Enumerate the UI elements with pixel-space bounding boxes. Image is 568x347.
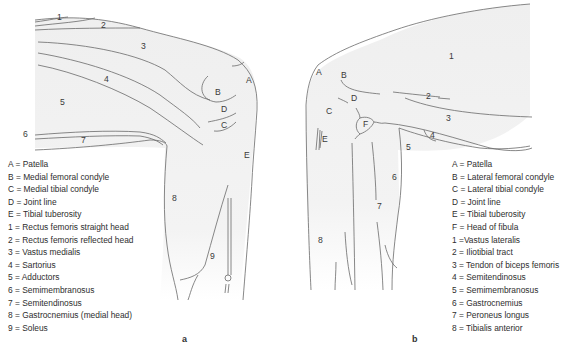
legend-a-item: 4 = Sartorius [8,259,133,272]
marker-a-5: 5 [60,98,65,107]
marker-b-B: B [341,71,347,80]
marker-b-D: D [351,94,357,103]
marker-a-9: 9 [210,252,215,261]
legend-b-item: 4 = Semitendinosus [452,271,559,284]
legend-a-item: B = Medial femoral condyle [8,171,133,184]
marker-a-6: 6 [23,130,28,139]
legend-a-item: 5 = Adductors [8,271,133,284]
panel-label-a: a [182,334,187,344]
legend-b-item: C = Lateral tibial condyle [452,183,559,196]
marker-b-1: 1 [449,52,454,61]
legend-panel-b: A = Patella B = Lateral femoral condyle … [452,158,559,334]
marker-b-E: E [322,135,328,144]
marker-a-E: E [244,151,250,160]
legend-a-item: 2 = Rectus femoris reflected head [8,234,133,247]
legend-a-item: 3 = Vastus medialis [8,246,133,259]
legend-a-item: A = Patella [8,158,133,171]
legend-b-item: 3 = Tendon of biceps femoris [452,259,559,272]
legend-b-item: 5 = Semimembranosus [452,284,559,297]
legend-b-item: D = Joint line [452,196,559,209]
marker-a-C: C [221,121,227,130]
panel-label-b: b [412,334,418,344]
legend-b-item: B = Lateral femoral condyle [452,171,559,184]
marker-b-7: 7 [377,202,382,211]
legend-a-item: C = Medial tibial condyle [8,183,133,196]
marker-b-5: 5 [406,143,411,152]
legend-b-item: 1 =Vastus lateralis [452,234,559,247]
legend-b-item: 6 = Gastrocnemius [452,297,559,310]
legend-panel-a: A = Patella B = Medial femoral condyle C… [8,158,133,334]
marker-b-6: 6 [392,173,397,182]
marker-a-1: 1 [57,13,62,22]
marker-a-A: A [246,76,252,85]
legend-a-item: 7 = Semitendinosus [8,297,133,310]
marker-b-3: 3 [446,114,451,123]
marker-a-D: D [221,105,227,114]
legend-a-item: 8 = Gastrocnemius (medial head) [8,309,133,322]
legend-a-item: 6 = Semimembranosus [8,284,133,297]
marker-b-2: 2 [426,92,431,101]
legend-b-item: 2 = Iliotibial tract [452,246,559,259]
marker-a-2: 2 [101,21,106,30]
marker-a-7: 7 [81,136,86,145]
marker-b-4: 4 [430,131,435,140]
marker-b-F: F [363,120,368,129]
legend-b-item: A = Patella [452,158,559,171]
legend-a-item: 1 = Rectus femoris straight head [8,221,133,234]
legend-a-item: D = Joint line [8,196,133,209]
marker-b-C: C [326,107,332,116]
marker-a-4: 4 [104,75,109,84]
marker-b-8: 8 [318,236,323,245]
marker-a-8: 8 [172,194,177,203]
legend-a-item: 9 = Soleus [8,322,133,335]
legend-a-item: E = Tibial tuberosity [8,208,133,221]
legend-b-item: E = Tibial tuberosity [452,208,559,221]
legend-b-item: 8 = Tibialis anterior [452,322,559,335]
marker-b-A: A [316,68,322,77]
legend-b-item: 7 = Peroneus longus [452,309,559,322]
marker-a-B: B [215,88,221,97]
legend-b-item: F = Head of fibula [452,221,559,234]
marker-a-3: 3 [141,42,146,51]
